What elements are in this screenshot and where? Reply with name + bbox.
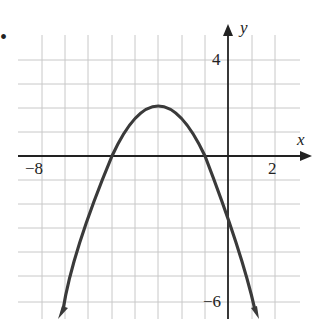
y-axis-label: y (240, 18, 248, 38)
y-tick-4: 4 (212, 50, 221, 70)
grid (18, 35, 300, 319)
parabola-curve (63, 106, 255, 310)
parabola-graph (0, 0, 314, 319)
y-axis-arrow-icon (223, 24, 233, 36)
curve-arrow-left-icon (58, 306, 68, 319)
y-tick-neg6: −6 (203, 292, 221, 312)
x-tick-neg8: −8 (25, 159, 43, 179)
x-axis-label: x (297, 130, 305, 150)
bullet: • (0, 26, 7, 49)
x-tick-2: 2 (268, 159, 277, 179)
x-axis-arrow-icon (300, 151, 312, 161)
